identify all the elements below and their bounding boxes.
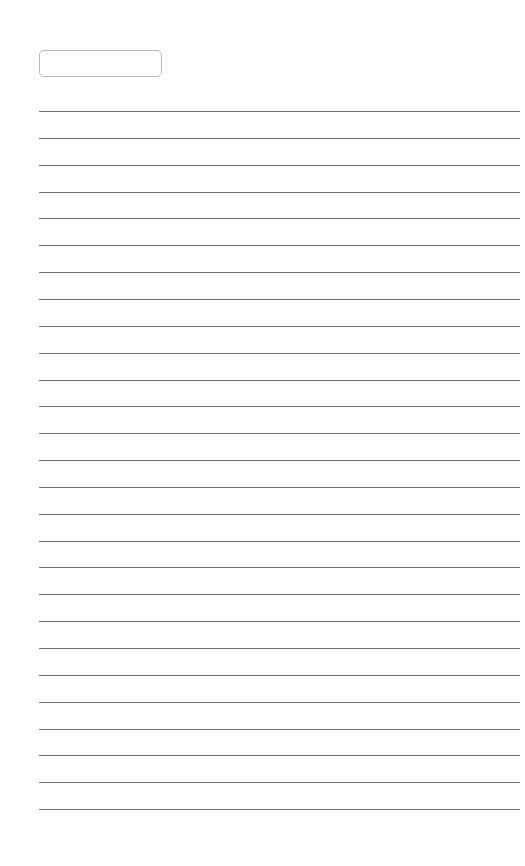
ruled-line [39,406,520,407]
ruled-line [39,702,520,703]
ruled-line [39,514,520,515]
ruled-line [39,729,520,730]
ruled-line [39,755,520,756]
ruled-line [39,594,520,595]
ruled-line [39,809,520,810]
ruled-line [39,138,520,139]
ruled-line [39,487,520,488]
ruled-line [39,648,520,649]
ruled-line [39,111,520,112]
ruled-line [39,380,520,381]
ruled-line [39,541,520,542]
ruled-line [39,675,520,676]
ruled-line [39,567,520,568]
ruled-line [39,165,520,166]
ruled-lines [39,0,520,866]
ruled-line [39,433,520,434]
ruled-line [39,272,520,273]
ruled-line [39,326,520,327]
ruled-line [39,460,520,461]
ruled-line [39,245,520,246]
ruled-line [39,782,520,783]
ruled-line [39,192,520,193]
ruled-line [39,299,520,300]
ruled-line [39,621,520,622]
ruled-line [39,218,520,219]
ruled-line [39,353,520,354]
